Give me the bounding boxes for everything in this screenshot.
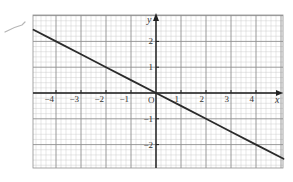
x-tick-label: 3 [225, 94, 230, 104]
x-tick-label: −4 [44, 94, 54, 104]
x-tick-label: −3 [69, 94, 79, 104]
y-tick-label: −1 [143, 114, 153, 124]
x-axis-label: x [274, 94, 280, 105]
y-axis-label: y [146, 14, 152, 25]
x-tick-label: 2 [200, 94, 205, 104]
x-tick-label: −1 [119, 94, 129, 104]
y-axis-arrow-icon [153, 13, 159, 21]
x-tick-label: 1 [175, 94, 180, 104]
y-tick-label: 1 [149, 62, 154, 72]
y-tick-label: −2 [143, 140, 153, 150]
origin-label: O [148, 95, 155, 105]
x-tick-label: 4 [250, 94, 255, 104]
line-graph: O x y −4−3−2−1123421−1−2 [0, 0, 293, 182]
pen-stroke [5, 22, 25, 32]
x-tick-label: −2 [94, 94, 104, 104]
pen-mark [5, 22, 25, 32]
y-tick-label: 2 [149, 36, 154, 46]
